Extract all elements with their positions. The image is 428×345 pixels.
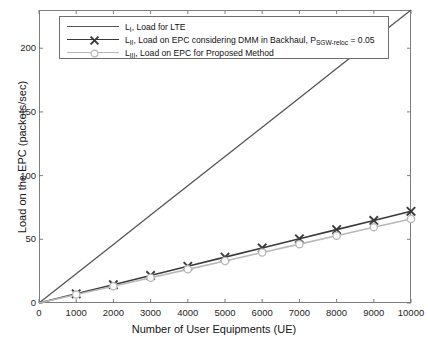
x-axis-title: Number of User Equipments (UE) — [0, 323, 428, 335]
figure: 050100150200 010002000300040005000600070… — [0, 0, 428, 345]
legend-item: LI, Load for LTE — [65, 20, 383, 33]
legend-label: LII, Load on EPC considering DMM in Back… — [125, 35, 375, 45]
legend-swatch — [65, 34, 121, 46]
legend-line-icon — [67, 26, 119, 28]
legend-item: LII, Load on EPC considering DMM in Back… — [65, 33, 383, 46]
legend: LI, Load for LTELII, Load on EPC conside… — [59, 16, 389, 59]
x-axis-tick-labels: 0100020003000400050006000700080009000100… — [0, 307, 428, 321]
legend-label: LIII, Load on EPC for Proposed Method — [125, 48, 274, 58]
y-axis-title: Load on the EPC (packets/sec) — [16, 42, 28, 272]
legend-label: LI, Load for LTE — [125, 22, 185, 32]
legend-swatch — [65, 47, 121, 59]
legend-swatch — [65, 21, 121, 33]
legend-item: LIII, Load on EPC for Proposed Method — [65, 46, 383, 59]
y-tick-label: 0 — [4, 298, 36, 307]
x-tick-label: 10000 — [388, 307, 428, 318]
legend-x-marker-icon — [89, 35, 100, 46]
legend-circle-marker-icon — [89, 48, 100, 59]
